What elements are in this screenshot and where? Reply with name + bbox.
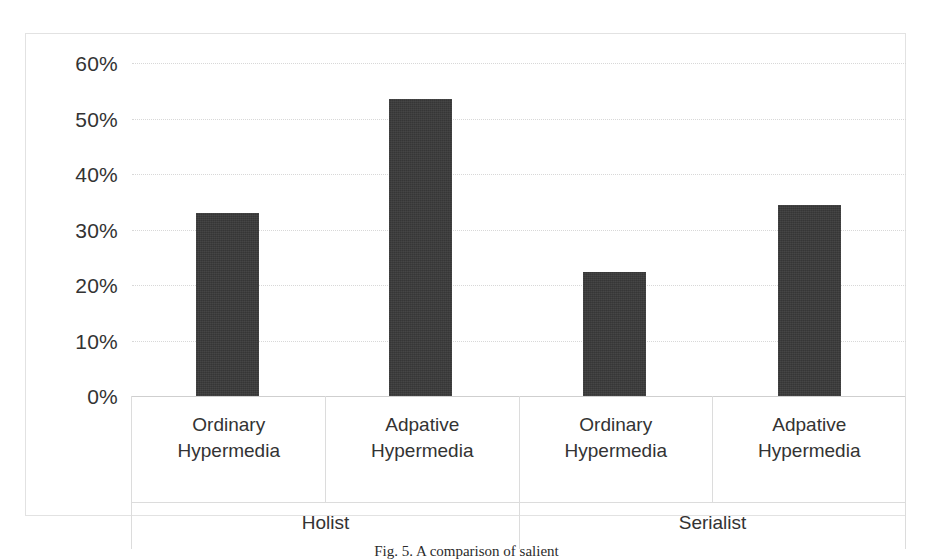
- group-cell-holist: Holist: [132, 502, 519, 549]
- y-axis-tick-label-0: 0%: [87, 386, 118, 407]
- category-cell-holist-adpative: Adpative Hypermedia: [326, 396, 520, 502]
- figure-container: 60% 50% 40% 30% 20% 10% 0% Ordinary Hype…: [0, 0, 933, 559]
- gridline-40: [132, 174, 906, 175]
- y-axis-tick-label-20: 20%: [75, 275, 118, 296]
- category-cell-holist-ordinary: Ordinary Hypermedia: [132, 396, 326, 502]
- chart-frame: 60% 50% 40% 30% 20% 10% 0% Ordinary Hype…: [25, 33, 906, 516]
- axis-rule-right: [905, 396, 906, 549]
- y-axis-tick-label-40: 40%: [75, 164, 118, 185]
- group-label-holist: Holist: [302, 511, 350, 536]
- bar-holist-ordinary-hypermedia[interactable]: [196, 213, 259, 396]
- bar-holist-adpative-hypermedia[interactable]: [389, 99, 452, 396]
- bar-serialist-ordinary-hypermedia[interactable]: [583, 272, 646, 396]
- group-label-serialist: Serialist: [679, 511, 747, 536]
- axis-rule-holist-inner: [325, 396, 326, 502]
- category-cell-serialist-adpative: Adpative Hypermedia: [713, 396, 907, 502]
- axis-rule-serialist-inner: [712, 396, 713, 502]
- category-label-holist-adpative: Adpative Hypermedia: [371, 412, 473, 464]
- y-axis-tick-label-30: 30%: [75, 219, 118, 240]
- category-label-serialist-ordinary: Ordinary Hypermedia: [565, 412, 667, 464]
- y-axis-tick-label-10: 10%: [75, 330, 118, 351]
- axis-rule-tier-divider: [131, 502, 906, 503]
- gridline-60: [132, 63, 906, 64]
- bar-serialist-adpative-hypermedia[interactable]: [778, 205, 841, 397]
- gridline-50: [132, 119, 906, 120]
- category-label-serialist-adpative: Adpative Hypermedia: [758, 412, 860, 464]
- y-axis-tick-label-50: 50%: [75, 108, 118, 129]
- plot-area: 60% 50% 40% 30% 20% 10% 0%: [132, 63, 906, 396]
- category-label-holist-ordinary: Ordinary Hypermedia: [178, 412, 280, 464]
- figure-caption: Fig. 5. A comparison of salient: [0, 543, 933, 559]
- y-axis-tick-label-60: 60%: [75, 53, 118, 74]
- category-cell-serialist-ordinary: Ordinary Hypermedia: [519, 396, 713, 502]
- group-cell-serialist: Serialist: [519, 502, 906, 549]
- axis-rule-group-divider: [519, 396, 520, 549]
- axis-rule-left: [131, 396, 132, 549]
